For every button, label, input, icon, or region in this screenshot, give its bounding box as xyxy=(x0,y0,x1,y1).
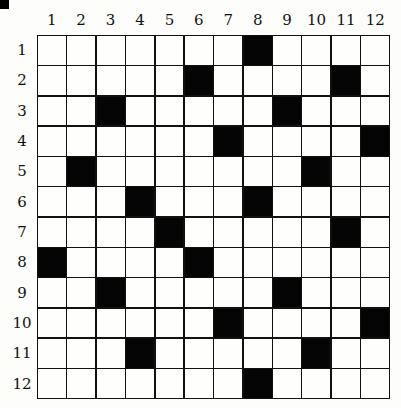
white-cell[interactable] xyxy=(126,369,154,398)
white-cell[interactable] xyxy=(244,97,272,126)
white-cell[interactable] xyxy=(244,248,272,277)
black-cell[interactable] xyxy=(244,36,272,65)
white-cell[interactable] xyxy=(156,339,184,368)
white-cell[interactable] xyxy=(214,66,242,95)
black-cell[interactable] xyxy=(302,157,330,186)
white-cell[interactable] xyxy=(214,187,242,216)
black-cell[interactable] xyxy=(126,187,154,216)
white-cell[interactable] xyxy=(67,36,95,65)
white-cell[interactable] xyxy=(38,309,66,338)
white-cell[interactable] xyxy=(185,157,213,186)
white-cell[interactable] xyxy=(214,157,242,186)
white-cell[interactable] xyxy=(156,369,184,398)
white-cell[interactable] xyxy=(214,339,242,368)
white-cell[interactable] xyxy=(302,218,330,247)
black-cell[interactable] xyxy=(332,218,360,247)
white-cell[interactable] xyxy=(361,157,389,186)
white-cell[interactable] xyxy=(185,97,213,126)
white-cell[interactable] xyxy=(156,66,184,95)
black-cell[interactable] xyxy=(185,248,213,277)
white-cell[interactable] xyxy=(361,369,389,398)
white-cell[interactable] xyxy=(302,187,330,216)
white-cell[interactable] xyxy=(214,97,242,126)
white-cell[interactable] xyxy=(126,66,154,95)
white-cell[interactable] xyxy=(332,187,360,216)
white-cell[interactable] xyxy=(97,127,125,156)
white-cell[interactable] xyxy=(38,339,66,368)
black-cell[interactable] xyxy=(67,157,95,186)
white-cell[interactable] xyxy=(273,369,301,398)
white-cell[interactable] xyxy=(273,248,301,277)
black-cell[interactable] xyxy=(156,218,184,247)
white-cell[interactable] xyxy=(214,248,242,277)
white-cell[interactable] xyxy=(185,339,213,368)
white-cell[interactable] xyxy=(214,36,242,65)
white-cell[interactable] xyxy=(332,369,360,398)
white-cell[interactable] xyxy=(361,339,389,368)
white-cell[interactable] xyxy=(67,66,95,95)
white-cell[interactable] xyxy=(67,97,95,126)
black-cell[interactable] xyxy=(361,309,389,338)
white-cell[interactable] xyxy=(302,248,330,277)
white-cell[interactable] xyxy=(38,157,66,186)
white-cell[interactable] xyxy=(302,97,330,126)
white-cell[interactable] xyxy=(38,66,66,95)
white-cell[interactable] xyxy=(273,66,301,95)
white-cell[interactable] xyxy=(67,309,95,338)
white-cell[interactable] xyxy=(126,127,154,156)
white-cell[interactable] xyxy=(244,66,272,95)
white-cell[interactable] xyxy=(126,157,154,186)
white-cell[interactable] xyxy=(332,309,360,338)
white-cell[interactable] xyxy=(67,339,95,368)
white-cell[interactable] xyxy=(302,369,330,398)
white-cell[interactable] xyxy=(332,278,360,307)
white-cell[interactable] xyxy=(156,187,184,216)
white-cell[interactable] xyxy=(332,36,360,65)
white-cell[interactable] xyxy=(332,339,360,368)
white-cell[interactable] xyxy=(67,369,95,398)
white-cell[interactable] xyxy=(156,127,184,156)
white-cell[interactable] xyxy=(244,127,272,156)
white-cell[interactable] xyxy=(156,248,184,277)
black-cell[interactable] xyxy=(273,97,301,126)
white-cell[interactable] xyxy=(361,66,389,95)
white-cell[interactable] xyxy=(156,309,184,338)
white-cell[interactable] xyxy=(126,309,154,338)
black-cell[interactable] xyxy=(38,248,66,277)
white-cell[interactable] xyxy=(332,97,360,126)
black-cell[interactable] xyxy=(302,339,330,368)
white-cell[interactable] xyxy=(67,127,95,156)
white-cell[interactable] xyxy=(126,218,154,247)
white-cell[interactable] xyxy=(97,187,125,216)
white-cell[interactable] xyxy=(38,278,66,307)
black-cell[interactable] xyxy=(214,127,242,156)
white-cell[interactable] xyxy=(97,157,125,186)
white-cell[interactable] xyxy=(126,97,154,126)
white-cell[interactable] xyxy=(97,66,125,95)
black-cell[interactable] xyxy=(97,278,125,307)
white-cell[interactable] xyxy=(38,218,66,247)
white-cell[interactable] xyxy=(185,278,213,307)
white-cell[interactable] xyxy=(244,157,272,186)
white-cell[interactable] xyxy=(361,218,389,247)
white-cell[interactable] xyxy=(185,127,213,156)
white-cell[interactable] xyxy=(38,127,66,156)
white-cell[interactable] xyxy=(332,127,360,156)
white-cell[interactable] xyxy=(214,369,242,398)
white-cell[interactable] xyxy=(38,97,66,126)
white-cell[interactable] xyxy=(361,278,389,307)
black-cell[interactable] xyxy=(244,187,272,216)
white-cell[interactable] xyxy=(273,309,301,338)
white-cell[interactable] xyxy=(126,278,154,307)
black-cell[interactable] xyxy=(273,278,301,307)
black-cell[interactable] xyxy=(97,97,125,126)
white-cell[interactable] xyxy=(332,248,360,277)
white-cell[interactable] xyxy=(156,157,184,186)
white-cell[interactable] xyxy=(38,36,66,65)
white-cell[interactable] xyxy=(38,187,66,216)
white-cell[interactable] xyxy=(67,187,95,216)
white-cell[interactable] xyxy=(67,248,95,277)
white-cell[interactable] xyxy=(97,309,125,338)
black-cell[interactable] xyxy=(361,127,389,156)
white-cell[interactable] xyxy=(273,127,301,156)
